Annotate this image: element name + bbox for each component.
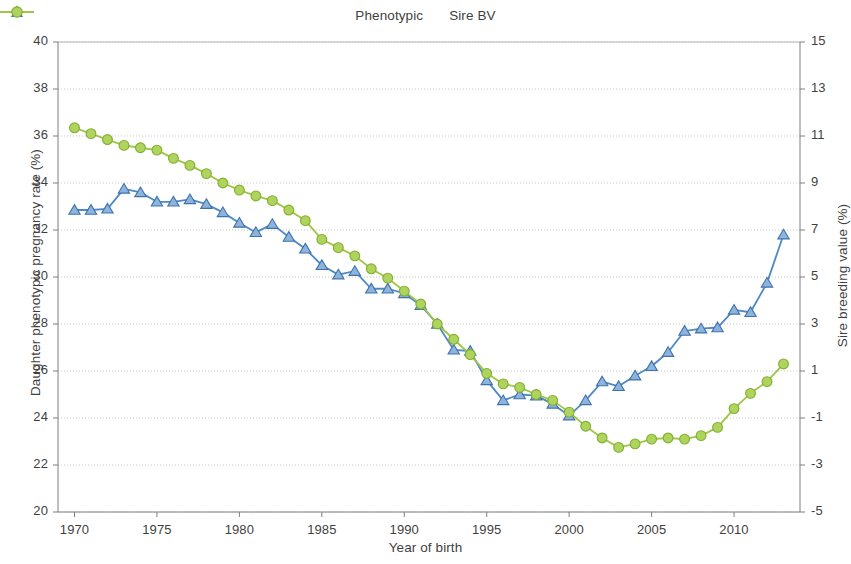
y-axis-right-tick: -1 [811, 409, 845, 424]
x-axis-tick: 1980 [209, 522, 269, 537]
y-axis-right-tick: 13 [811, 80, 845, 95]
x-axis-tick: 1985 [292, 522, 352, 537]
y-axis-left-tick: 36 [14, 127, 48, 142]
x-axis-tick: 1990 [374, 522, 434, 537]
y-axis-left-tick: 40 [14, 33, 48, 48]
y-axis-right-tick: 9 [811, 174, 845, 189]
y-axis-right-tick: 11 [811, 127, 845, 142]
plot-area [0, 0, 851, 564]
x-axis-tick: 2010 [704, 522, 764, 537]
y-axis-left-tick: 30 [14, 268, 48, 283]
y-axis-right-tick: 15 [811, 33, 845, 48]
y-axis-left-tick: 38 [14, 80, 48, 95]
y-axis-left-tick: 32 [14, 221, 48, 236]
y-axis-right-tick: 7 [811, 221, 845, 236]
y-axis-left-tick: 26 [14, 362, 48, 377]
y-axis-right-tick: 1 [811, 362, 845, 377]
y-axis-left-tick: 20 [14, 503, 48, 518]
x-axis-tick: 1970 [44, 522, 104, 537]
x-axis-tick: 1995 [457, 522, 517, 537]
y-axis-left-tick: 24 [14, 409, 48, 424]
y-axis-left-tick: 28 [14, 315, 48, 330]
y-axis-right-tick: -5 [811, 503, 845, 518]
y-axis-right-tick: 3 [811, 315, 845, 330]
y-axis-left-tick: 34 [14, 174, 48, 189]
x-axis-tick: 2005 [622, 522, 682, 537]
y-axis-right-tick: -3 [811, 456, 845, 471]
chart-container: Phenotypic Sire BV Daughter phenotypic p… [0, 0, 851, 564]
x-axis-tick: 2000 [539, 522, 599, 537]
x-axis-tick: 1975 [127, 522, 187, 537]
y-axis-right-tick: 5 [811, 268, 845, 283]
y-axis-left-tick: 22 [14, 456, 48, 471]
